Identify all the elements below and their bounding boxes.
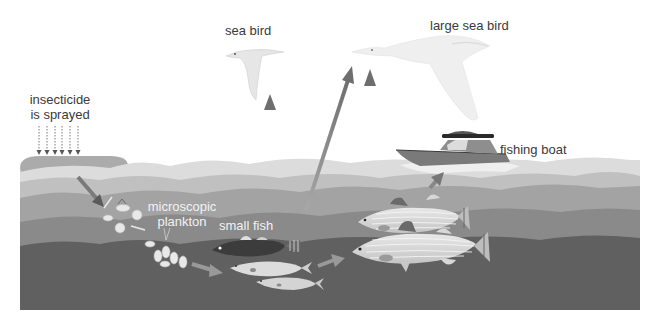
water-layers — [20, 157, 640, 310]
fishing-boat-label: fishing boat — [500, 142, 567, 157]
plankton-label: microscopic plankton — [142, 199, 222, 229]
large-sea-bird-label: large sea bird — [430, 18, 509, 33]
insecticide-label-line1: insecticide — [28, 92, 92, 107]
diagram-canvas — [0, 0, 663, 332]
small-fish-label: small fish — [219, 218, 273, 233]
spray-arrows-icon — [37, 126, 81, 155]
biomagnification-diagram — [0, 0, 663, 332]
insecticide-label: insecticide is sprayed — [28, 92, 92, 122]
insecticide-label-line2: is sprayed — [28, 107, 92, 122]
plankton-label-line2: plankton — [142, 214, 222, 229]
fishing-boat-icon — [396, 131, 510, 166]
sea-bird-label: sea bird — [225, 23, 271, 38]
plankton-label-line1: microscopic — [142, 199, 222, 214]
sea-bird-icon — [226, 49, 284, 100]
